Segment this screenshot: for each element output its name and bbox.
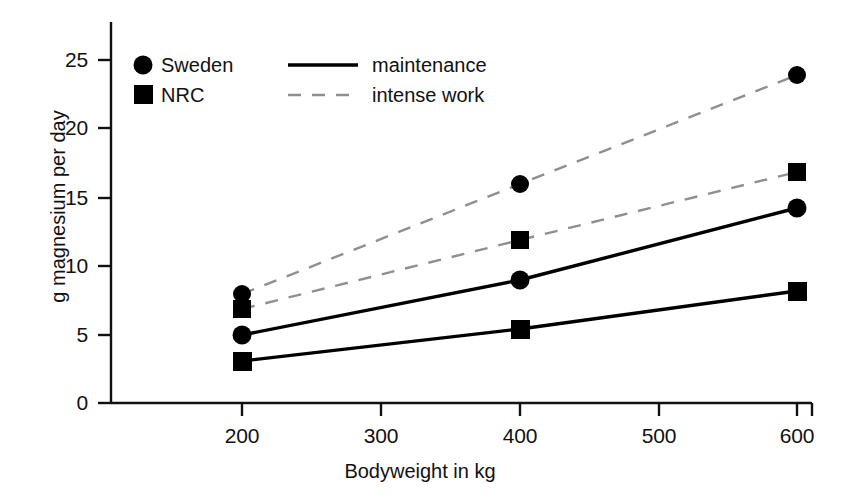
data-point [511, 175, 529, 193]
data-point [788, 163, 806, 181]
legend-label-intense-work: intense work [372, 84, 484, 107]
data-point [788, 66, 806, 84]
x-axis [111, 403, 812, 416]
x-tick-label-200: 200 [202, 424, 282, 448]
legend-label-maintenance: maintenance [372, 54, 487, 77]
x-tick-label-400: 400 [480, 424, 560, 448]
y-tick-label-0: 0 [44, 391, 88, 415]
chart-figure: 25 20 15 10 5 0 200 300 400 500 600 g ma… [0, 0, 841, 501]
data-point [788, 199, 807, 218]
legend-label-sweden: Sweden [161, 54, 233, 77]
series-nrc-maintenance [233, 282, 807, 371]
data-point [511, 231, 529, 249]
x-tick-label-300: 300 [341, 424, 421, 448]
data-point [788, 282, 807, 301]
data-point [233, 326, 252, 345]
legend-square-icon [134, 85, 153, 104]
y-axis [98, 22, 111, 403]
data-point [233, 300, 251, 318]
x-tick-label-500: 500 [619, 424, 699, 448]
x-tick-label-600: 600 [757, 424, 837, 448]
legend-circle-icon [134, 56, 153, 75]
data-point [233, 352, 252, 371]
x-axis-title: Bodyweight in kg [200, 460, 640, 483]
data-point [511, 271, 530, 290]
series-sweden-intense-work [233, 66, 806, 303]
legend-label-nrc: NRC [161, 84, 204, 107]
data-point [511, 320, 530, 339]
y-axis-title: g magnesium per day [47, 57, 70, 357]
